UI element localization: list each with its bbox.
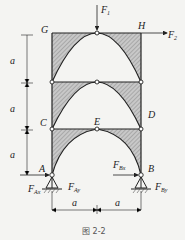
hinge-mid-2 (95, 80, 99, 84)
frame-diagram: G H C D E A B F1 F2 FAx FAy FBx FBy a a … (0, 0, 185, 240)
vertical-dimension (21, 35, 33, 175)
hinge-D (139, 127, 143, 131)
dim-label-v1: a (10, 55, 15, 66)
label-F1: F1 (100, 4, 110, 16)
label-C: C (40, 117, 47, 128)
dim-label-h2: a (115, 197, 120, 208)
support-A (46, 177, 58, 188)
hinge-E (95, 127, 99, 131)
hinge-right-2 (139, 80, 143, 84)
label-E: E (93, 116, 100, 127)
dim-label-v3: a (10, 149, 15, 160)
hinge-top (95, 31, 99, 35)
label-FBy: FBy (154, 181, 168, 193)
figure-caption: 图 2-2 (82, 227, 106, 236)
dim-label-h1: a (72, 197, 77, 208)
label-F2: F2 (167, 29, 177, 41)
label-FAy: FAy (67, 181, 80, 193)
horizontal-dimension (52, 205, 141, 214)
label-D: D (147, 109, 156, 120)
label-B: B (148, 163, 154, 174)
label-A: A (38, 163, 46, 174)
label-FAx: FAx (27, 183, 41, 195)
hinge-C (50, 127, 54, 131)
hinge-left-2 (50, 80, 54, 84)
label-G: G (41, 24, 48, 35)
label-H: H (137, 20, 146, 31)
support-B (135, 177, 147, 188)
label-FBx: FBx (112, 159, 126, 171)
lower-panel-left (52, 129, 97, 175)
dim-label-v2: a (10, 103, 15, 114)
